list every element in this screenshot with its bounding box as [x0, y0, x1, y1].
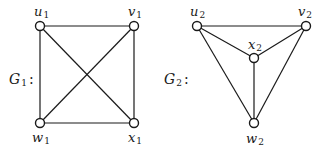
vertex-v1 [130, 22, 139, 31]
label-x1: x1 [128, 130, 142, 146]
edge-u2-x2 [197, 26, 254, 58]
vertex-v2 [302, 22, 311, 31]
vertex-u1 [36, 22, 45, 31]
edge-v2-w2 [254, 26, 306, 123]
edge-u2-w2 [197, 26, 254, 123]
edge-v2-x2 [254, 26, 306, 58]
g1-edges [40, 26, 134, 123]
vertex-w2 [250, 119, 259, 128]
vertex-x1 [130, 119, 139, 128]
graph-diagram: u1 v1 w1 x1 u2 v2 x2 w2 G1: G2: [0, 0, 318, 154]
vertex-x2 [250, 54, 259, 63]
vertex-u2 [193, 22, 202, 31]
label-v1: v1 [128, 4, 142, 20]
label-x2: x2 [248, 37, 262, 53]
label-w1: w1 [32, 130, 50, 146]
label-u1: u1 [34, 4, 49, 20]
label-w2: w2 [246, 131, 264, 147]
vertex-w1 [36, 119, 45, 128]
label-u2: u2 [190, 4, 205, 20]
graph-label-g2: G2: [164, 71, 189, 88]
label-v2: v2 [298, 4, 312, 20]
graph-label-g1: G1: [9, 71, 34, 88]
